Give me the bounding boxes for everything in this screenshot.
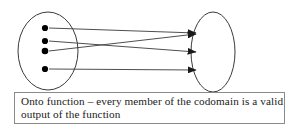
mapping-arrow-1 xyxy=(49,28,196,33)
onto-function-diagram: Onto function – every member of the codo… xyxy=(0,0,295,135)
caption-line-2: output of the function xyxy=(21,108,279,121)
codomain-ellipse xyxy=(191,12,235,92)
domain-element-dot-2 xyxy=(42,38,48,44)
caption-line-1: Onto function – every member of the codo… xyxy=(21,95,279,108)
caption-box: Onto function – every member of the codo… xyxy=(14,92,285,124)
domain-element-dot-3 xyxy=(42,48,49,55)
domain-element-dot-1 xyxy=(42,25,48,31)
mapping-arrow-4 xyxy=(49,69,196,70)
domain-element-dot-4 xyxy=(42,66,48,72)
